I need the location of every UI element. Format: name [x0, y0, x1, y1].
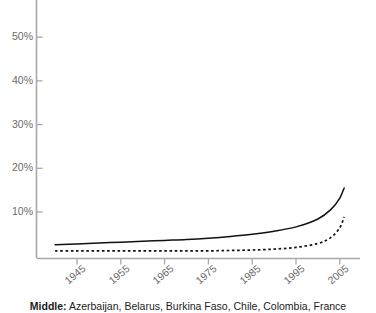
y-axis-tick-label-text: 50%: [1, 31, 33, 42]
chart-container: 10%20%30%40%50% 194519551965197519851995…: [0, 0, 376, 313]
y-axis-tick-label: 10%: [0, 206, 33, 217]
series-line-dashed: [55, 217, 344, 251]
y-axis-tick-label: 30%: [0, 119, 33, 130]
y-axis-tick-label: 50%: [0, 31, 33, 42]
caption-country-list: Azerbaijan, Belarus, Burkina Faso, Chile…: [69, 300, 346, 312]
caption-group-label: Middle:: [30, 300, 67, 312]
series-line-solid: [55, 188, 344, 245]
y-axis-tick-label: 20%: [0, 162, 33, 173]
chart-plot-area: [0, 0, 376, 313]
y-axis-tick-label-text: 10%: [1, 206, 33, 217]
y-axis-tick-label: 40%: [0, 75, 33, 86]
y-axis-tick-label-text: 20%: [1, 162, 33, 173]
y-axis-tick-label-text: 30%: [1, 119, 33, 130]
y-axis-tick-label-text: 40%: [1, 75, 33, 86]
y-axis-ticks: [37, 37, 43, 212]
chart-caption: Middle: Azerbaijan, Belarus, Burkina Fas…: [0, 300, 376, 313]
